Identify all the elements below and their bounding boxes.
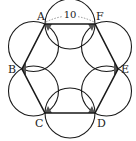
vertex-label-E: E (121, 63, 129, 76)
side-length-label: 10 (64, 9, 77, 20)
vertex-label-F: F (96, 10, 104, 23)
vertex-label-B: B (8, 63, 16, 76)
hexagon-diagram: 10 A F E D C B (0, 0, 136, 141)
side-circles (9, 0, 132, 138)
vertex-label-C: C (35, 117, 43, 130)
vertex-label-A: A (36, 10, 46, 23)
shaded-vertex-regions (22, 24, 118, 113)
hexagon (22, 24, 118, 113)
vertex-label-D: D (97, 117, 106, 130)
